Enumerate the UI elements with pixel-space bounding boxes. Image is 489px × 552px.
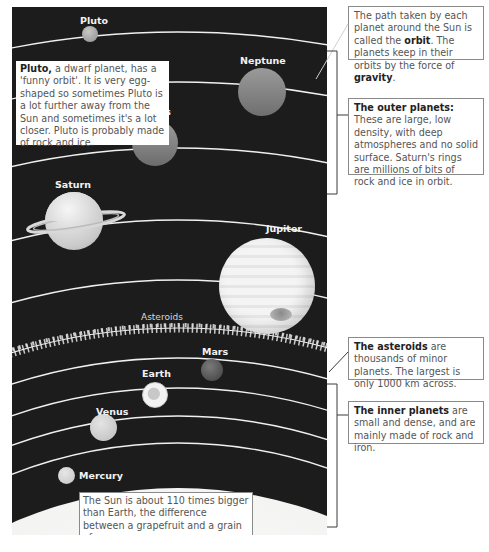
asteroids-heading: The asteroids xyxy=(354,341,428,352)
neptune-planet xyxy=(238,68,286,116)
venus-planet xyxy=(90,414,117,441)
asteroids-note: The asteroids are thousands of minor pla… xyxy=(348,337,484,380)
outer-planets-text: These are large, low density, with deep … xyxy=(354,114,478,187)
asteroids-label: Asteroids xyxy=(141,312,183,322)
outer-planets-bracket xyxy=(327,51,337,194)
sun-note-text: The Sun is about 110 times bigger than E… xyxy=(83,495,249,535)
gravity-keyword: gravity xyxy=(354,72,392,83)
mercury-label: Mercury xyxy=(79,470,123,481)
mercury-planet xyxy=(58,467,75,484)
outer-planets-note: The outer planets: These are large, low … xyxy=(348,98,484,175)
earth-planet xyxy=(142,382,168,408)
pluto-planet xyxy=(82,26,98,42)
mars-label: Mars xyxy=(202,346,228,357)
jupiter-planet xyxy=(219,238,315,334)
inner-planets-note: The inner planets are small and dense, a… xyxy=(348,401,484,444)
orbit-note-keyword: orbit xyxy=(404,35,430,46)
inner-planets-bracket xyxy=(327,384,337,527)
inner-planets-heading: The inner planets xyxy=(354,405,449,416)
mars-planet xyxy=(201,359,223,381)
outer-planets-heading: The outer planets: xyxy=(354,102,454,113)
venus-label: Venus xyxy=(96,406,128,417)
jupiter-great-red-spot xyxy=(270,308,292,321)
earth-label: Earth xyxy=(142,368,171,379)
solar-system-diagram: Pluto Neptune Uranus Saturn Jupiter Aste… xyxy=(0,0,489,552)
pluto-note-heading: Pluto, xyxy=(20,63,52,74)
saturn-label: Saturn xyxy=(55,179,91,190)
pluto-note-text: a dwarf planet, has a 'funny orbit'. It … xyxy=(20,63,164,148)
orbit-note: The path taken by each planet around the… xyxy=(348,6,484,60)
orbit-note-text-3: . xyxy=(392,72,395,83)
jupiter-label: Jupiter xyxy=(266,223,302,234)
pluto-note: Pluto, a dwarf planet, has a 'funny orbi… xyxy=(16,61,169,145)
pluto-label: Pluto xyxy=(80,15,108,26)
neptune-label: Neptune xyxy=(240,55,286,66)
sun-note: The Sun is about 110 times bigger than E… xyxy=(79,492,253,535)
